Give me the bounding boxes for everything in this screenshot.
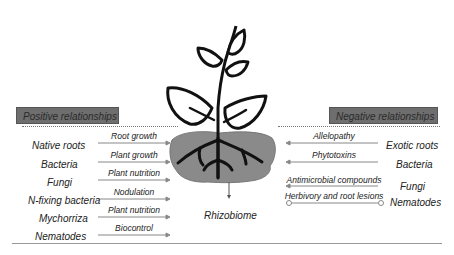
negative-effect: Herbivory and root lesions bbox=[284, 191, 384, 201]
negative-divider bbox=[278, 126, 440, 127]
positive-effect: Biocontrol bbox=[98, 223, 170, 233]
rhizobiome-diagram: Positive relationships Negative relation… bbox=[0, 0, 454, 255]
negative-effect: Allelopathy bbox=[286, 131, 382, 141]
negative-effect: Antimicrobial compounds bbox=[284, 175, 384, 185]
positive-organism: Bacteria bbox=[41, 159, 78, 170]
negative-organism: Bacteria bbox=[396, 159, 433, 170]
negative-organism: Nematodes bbox=[390, 197, 441, 208]
positive-organism: N-fixing bacteria bbox=[28, 195, 100, 206]
bottom-divider bbox=[12, 243, 442, 244]
positive-effect: Plant nutrition bbox=[98, 205, 170, 215]
rhizobiome-label: Rhizobiome bbox=[204, 210, 257, 221]
positive-organism: Mychorriza bbox=[39, 213, 88, 224]
negative-organism: Fungi bbox=[400, 181, 425, 192]
positive-divider bbox=[22, 126, 178, 127]
negative-effect: Phytotoxins bbox=[286, 150, 382, 160]
positive-organism: Fungi bbox=[47, 177, 72, 188]
positive-effect: Plant growth bbox=[98, 150, 170, 160]
positive-effect: Nodulation bbox=[98, 187, 170, 197]
positive-effect: Plant nutrition bbox=[98, 168, 170, 178]
negative-relationships-header: Negative relationships bbox=[329, 107, 438, 124]
positive-organism: Nematodes bbox=[35, 231, 86, 242]
positive-effect: Root growth bbox=[98, 131, 170, 141]
positive-relationships-header: Positive relationships bbox=[16, 107, 119, 124]
negative-organism: Exotic roots bbox=[386, 140, 438, 151]
positive-organism: Native roots bbox=[32, 140, 85, 151]
